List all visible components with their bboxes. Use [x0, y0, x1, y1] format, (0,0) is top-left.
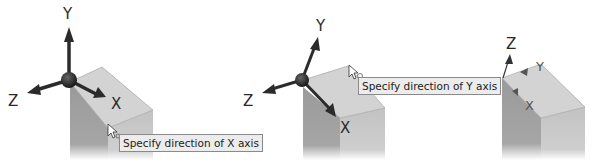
panel-3: Z Y X	[502, 35, 585, 160]
z-axis-label: Z	[8, 92, 18, 110]
triad-origin	[61, 72, 77, 88]
tooltip-y-axis: Specify direction of Y axis	[358, 77, 501, 95]
y-arrow-head	[64, 27, 74, 42]
y-axis-label: Y	[535, 59, 544, 74]
z-arrow-head	[262, 84, 276, 94]
y-axis-label: Y	[315, 17, 326, 35]
x-axis-label: X	[525, 98, 534, 113]
triad-origin	[295, 73, 309, 87]
z-arrow-head	[505, 54, 513, 64]
x-axis-label: X	[340, 119, 350, 137]
y-axis-label: Y	[62, 5, 73, 23]
z-arrow-head	[27, 84, 41, 95]
tooltip-x-axis: Specify direction of X axis	[119, 134, 263, 152]
z-axis-label: Z	[506, 35, 516, 53]
block	[502, 64, 585, 160]
z-axis-label: Z	[243, 92, 253, 110]
z-axis-arrow	[503, 62, 508, 78]
x-axis-label: X	[111, 95, 121, 113]
diagram-canvas: Y Z X Y Z X	[0, 0, 592, 165]
y-arrow-head	[310, 37, 320, 51]
